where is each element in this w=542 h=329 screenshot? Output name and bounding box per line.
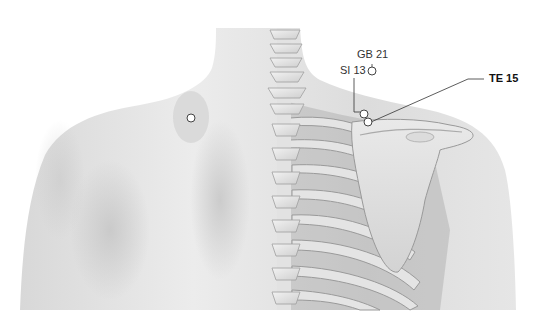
anatomy-illustration: GB 21 SI 13 TE 15 — [0, 0, 542, 329]
point-si13 — [360, 110, 368, 118]
point-gb21 — [368, 67, 376, 75]
label-gb21: GB 21 — [357, 49, 388, 60]
point-left-shoulder — [187, 114, 195, 122]
label-te15: TE 15 — [489, 73, 518, 84]
label-si13: SI 13 — [340, 65, 366, 76]
point-te15 — [364, 118, 372, 126]
